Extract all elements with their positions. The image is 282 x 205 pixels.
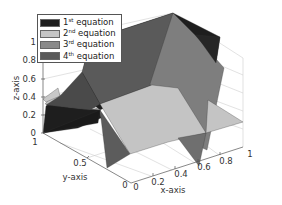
svg-text:1: 1 [31,37,36,47]
svg-text:1: 1 [32,137,37,147]
legend-label-3: 3rd equation [63,39,114,50]
patch-eq2-right [206,100,243,133]
legend-swatch-1 [40,19,60,27]
z-tick-labels: 1 0.8 0.6 0.4 0.2 0 [22,37,36,138]
legend-label-2: 2nd equation [63,28,116,39]
svg-text:0.6: 0.6 [22,74,36,84]
z-axis-label: z-axis [11,75,21,100]
svg-text:0: 0 [133,182,138,192]
legend-swatch-3 [40,41,60,49]
y-axis-label: y-axis [63,172,89,182]
svg-text:0.4: 0.4 [174,169,188,179]
legend-item-4: 4th equation [40,51,119,62]
legend-label-4: 4th equation [63,51,114,62]
svg-text:0.4: 0.4 [22,92,36,102]
svg-text:0.6: 0.6 [197,162,211,172]
legend-item-3: 3rd equation [40,39,119,50]
legend-item-2: 2nd equation [40,28,119,39]
svg-text:0: 0 [122,180,127,190]
svg-text:1: 1 [247,149,252,159]
legend-item-1: 1st equation [40,17,119,28]
legend: 1st equation 2nd equation 3rd equation 4… [37,14,122,63]
legend-swatch-4 [40,52,60,60]
svg-text:0.8: 0.8 [219,156,233,166]
svg-text:0.8: 0.8 [22,55,36,65]
svg-text:0.5: 0.5 [73,158,87,168]
legend-swatch-2 [40,30,60,38]
legend-label-1: 1st equation [63,17,114,28]
svg-text:0.2: 0.2 [22,110,36,120]
x-axis-label: x-axis [160,185,186,195]
